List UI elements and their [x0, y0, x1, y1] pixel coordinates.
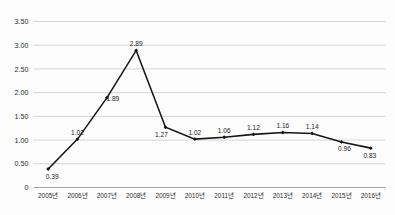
x-axis-tick-label: 2010년: [185, 191, 205, 199]
data-point-label: 1.27: [155, 131, 168, 138]
line-chart: 00.501.001.502.002.503.003.50 2005년2006년…: [0, 0, 395, 215]
data-point-label: 0.96: [338, 145, 351, 152]
data-point-label: 1.12: [247, 124, 260, 131]
x-axis-tick-label: 2015년: [331, 191, 351, 199]
x-axis-tick-label: 2008년: [126, 191, 146, 199]
y-axis-tick-label: 3.50: [15, 17, 29, 26]
data-point-label: 1.06: [218, 127, 231, 134]
data-point-label: 0.39: [46, 173, 59, 180]
y-axis-tick-label: 0.50: [15, 159, 29, 168]
x-axis-tick-label: 2006년: [67, 191, 87, 199]
x-axis-tick-label: 2013년: [273, 191, 293, 199]
x-axis-tick-label: 2007년: [97, 191, 117, 199]
data-point-label: 1.16: [276, 122, 289, 129]
y-axis-tick-label: 1.00: [15, 136, 29, 145]
x-axis-tick-label: 2012년: [243, 191, 263, 199]
x-axis-tick-label: 2016년: [361, 191, 381, 199]
data-point-label: 0.83: [363, 152, 376, 159]
x-axis-tick-label: 2005년: [38, 191, 58, 199]
data-point-label: 2.89: [130, 40, 143, 47]
y-axis-tick-label: 3.00: [15, 41, 29, 50]
data-point-label: 1.02: [71, 129, 84, 136]
chart-background: [0, 0, 395, 215]
data-point-label: 1.14: [306, 123, 319, 130]
x-axis-tick-label: 2011년: [214, 191, 234, 199]
x-axis-tick-label: 2009년: [155, 191, 175, 199]
data-point-label: 1.02: [188, 129, 201, 136]
chart-canvas: 00.501.001.502.002.503.003.50 2005년2006년…: [0, 0, 395, 215]
data-point-label: 1.89: [106, 95, 119, 102]
y-axis-tick-label: 1.50: [15, 112, 29, 121]
x-axis-tick-label: 2014년: [302, 191, 322, 199]
y-axis-tick-label: 2.00: [15, 88, 29, 97]
y-axis-tick-label: 0: [25, 183, 29, 192]
y-axis-tick-label: 2.50: [15, 65, 29, 74]
